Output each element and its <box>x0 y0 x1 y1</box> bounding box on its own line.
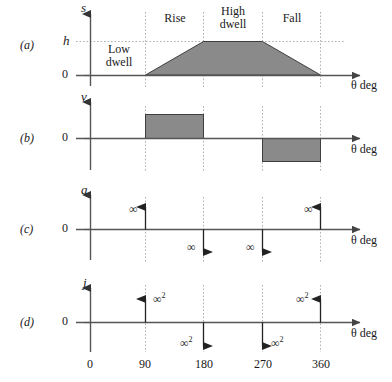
region-label-high-dwell-line2: dwell <box>205 18 261 31</box>
region-label-rise: Rise <box>152 12 198 25</box>
region-label-low-dwell-line2: dwell <box>96 56 142 69</box>
velocity-positive-block <box>146 115 204 139</box>
displacement-trapezoid-fill <box>146 42 321 76</box>
panel-d-zero-label: 0 <box>62 315 68 327</box>
panel-tag-d: (d) <box>20 316 34 328</box>
region-label-fall-line1: Fall <box>269 12 315 25</box>
panel-a-axis-label: θ deg <box>351 79 377 91</box>
ordinate-label-a: a <box>81 183 88 196</box>
jerk-infinity-squared-label-180: ∞2 <box>180 336 193 349</box>
region-label-rise-line1: Rise <box>152 12 198 25</box>
jerk-inf-180-sup: 2 <box>189 335 193 344</box>
panel-d-axis-label: θ deg <box>351 327 377 339</box>
panel-d-jerk <box>76 288 360 352</box>
panel-tag-a: (a) <box>20 39 34 51</box>
tick-label-180: 180 <box>185 358 223 370</box>
velocity-negative-block <box>263 139 321 162</box>
panel-c-axis-label: θ deg <box>351 234 377 246</box>
jerk-inf-360-base: ∞ <box>296 292 305 306</box>
h-level-label: h <box>63 34 70 47</box>
jerk-inf-360-sup: 2 <box>305 291 309 300</box>
acceleration-infinity-label-180: ∞ <box>187 241 196 253</box>
panel-b-velocity <box>76 102 360 170</box>
panel-tag-b: (b) <box>20 132 34 144</box>
ordinate-label-s: s <box>81 1 86 14</box>
jerk-inf-180-base: ∞ <box>180 336 189 350</box>
cam-motion-diagram: (a) (b) (c) (d) s v a j h 0 0 0 0 θ deg … <box>0 0 392 382</box>
tick-label-90: 90 <box>129 358 161 370</box>
jerk-infinity-squared-label-270: ∞2 <box>271 336 284 349</box>
region-label-low-dwell-line1: Low <box>96 43 142 56</box>
region-label-high-dwell-line1: High <box>205 5 261 18</box>
jerk-inf-90-base: ∞ <box>153 292 162 306</box>
jerk-inf-90-sup: 2 <box>162 291 166 300</box>
jerk-infinity-squared-label-90: ∞2 <box>153 292 166 305</box>
panel-c-acceleration <box>76 195 360 260</box>
panel-a-zero-label: 0 <box>62 68 68 80</box>
panel-c-zero-label: 0 <box>62 222 68 234</box>
tick-label-0: 0 <box>74 358 106 370</box>
panel-tag-c: (c) <box>20 223 33 235</box>
ordinate-label-j: j <box>83 276 87 289</box>
acceleration-infinity-label-360: ∞ <box>304 203 313 215</box>
jerk-inf-270-sup: 2 <box>280 335 284 344</box>
tick-label-360: 360 <box>302 358 340 370</box>
ordinate-label-v: v <box>81 90 87 103</box>
acceleration-infinity-label-90: ∞ <box>129 203 138 215</box>
region-label-low-dwell: Low dwell <box>96 43 142 70</box>
diagram-canvas <box>0 0 392 382</box>
panel-b-axis-label: θ deg <box>351 143 377 155</box>
panel-b-zero-label: 0 <box>62 131 68 143</box>
jerk-inf-270-base: ∞ <box>271 336 280 350</box>
jerk-infinity-squared-label-360: ∞2 <box>296 292 309 305</box>
acceleration-infinity-label-270: ∞ <box>246 241 255 253</box>
region-label-high-dwell: High dwell <box>205 5 261 32</box>
region-label-fall: Fall <box>269 12 315 25</box>
tick-label-270: 270 <box>244 358 282 370</box>
